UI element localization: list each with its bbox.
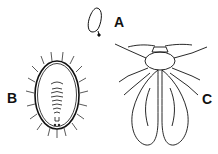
adult-drawing <box>115 44 207 145</box>
nymph-drawing <box>26 52 88 138</box>
label-a: A <box>114 15 124 29</box>
label-c: C <box>202 92 212 106</box>
illustration <box>0 0 218 154</box>
label-b: B <box>7 91 17 105</box>
egg-drawing <box>88 8 101 36</box>
